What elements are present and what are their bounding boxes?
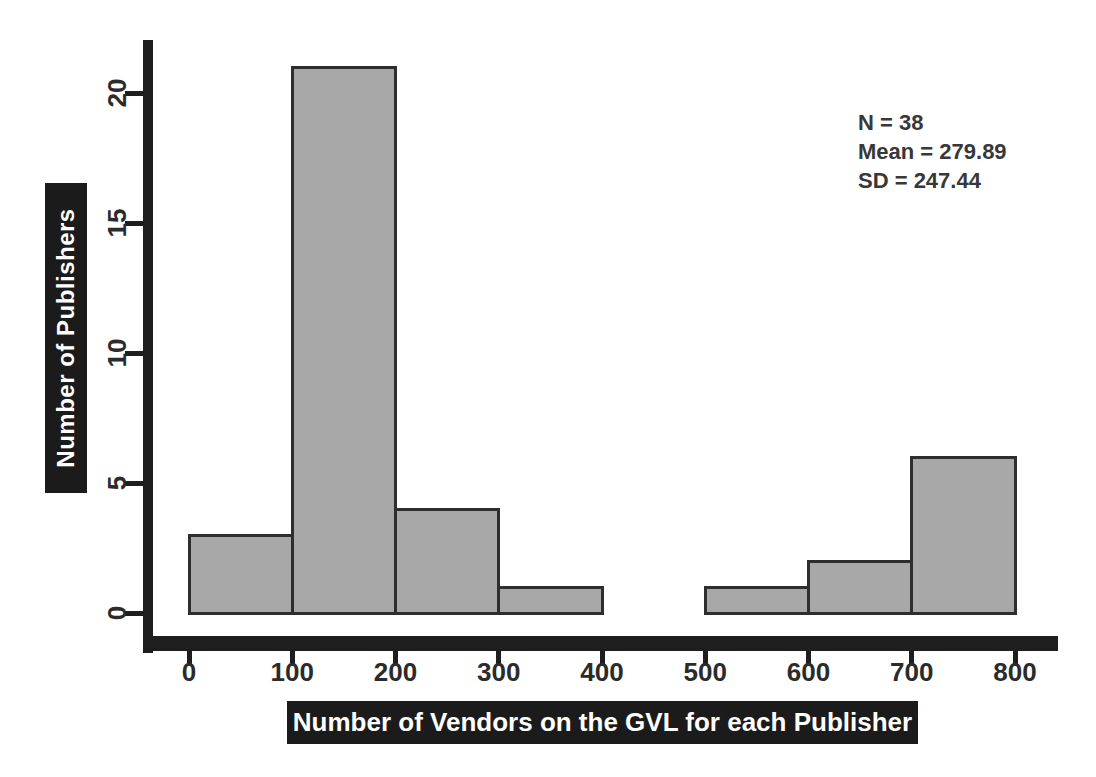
x-tick-label: 700 xyxy=(890,657,933,688)
y-tick-label: 20 xyxy=(102,79,133,108)
y-tick-label: 5 xyxy=(102,476,133,490)
x-tick-label: 500 xyxy=(684,657,727,688)
annotation-mean: Mean = 279.89 xyxy=(858,137,1007,166)
annotation-sd: SD = 247.44 xyxy=(858,166,1007,195)
x-axis-title: Number of Vendors on the GVL for each Pu… xyxy=(293,707,912,738)
histogram-bar xyxy=(807,560,913,615)
y-tick-label: 15 xyxy=(102,209,133,238)
x-tick-label: 0 xyxy=(182,657,196,688)
x-tick-label: 800 xyxy=(993,657,1036,688)
x-tick-label: 300 xyxy=(477,657,520,688)
histogram-bar xyxy=(704,586,810,615)
y-tick-label: 10 xyxy=(102,339,133,368)
x-axis-title-box: Number of Vendors on the GVL for each Pu… xyxy=(287,701,918,744)
x-tick-label: 400 xyxy=(580,657,623,688)
histogram-bar xyxy=(188,534,294,615)
x-tick-label: 600 xyxy=(787,657,830,688)
x-axis-line xyxy=(143,636,1058,651)
y-axis-title: Number of Publishers xyxy=(52,208,80,467)
histogram-bar xyxy=(394,508,500,615)
x-tick-label: 200 xyxy=(374,657,417,688)
histogram-bar xyxy=(291,66,397,615)
histogram-bar xyxy=(910,456,1016,615)
x-tick-label: 100 xyxy=(271,657,314,688)
y-axis-title-box: Number of Publishers xyxy=(45,183,87,493)
histogram-bar xyxy=(497,586,603,615)
histogram-figure: 051015200100200300400500600700800 Number… xyxy=(0,0,1096,777)
stats-annotation: N = 38 Mean = 279.89 SD = 247.44 xyxy=(858,108,1007,195)
y-axis-line xyxy=(143,40,153,653)
y-tick-label: 0 xyxy=(102,606,133,620)
annotation-n: N = 38 xyxy=(858,108,1007,137)
